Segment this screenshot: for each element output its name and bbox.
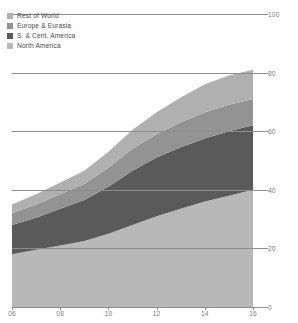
y-tick-mark: [253, 248, 268, 249]
legend-swatch-icon: [7, 33, 13, 39]
y-tick-mark: [253, 131, 268, 132]
legend-item-label: Rest of World: [17, 11, 59, 20]
stacked-area-chart: Rest of World Europe & Eurasia S. & Cent…: [0, 0, 298, 323]
y-axis-tick-label: 40: [268, 186, 276, 193]
y-tick-mark: [253, 307, 268, 308]
x-axis-tick-label: 16: [249, 310, 257, 317]
legend-swatch-icon: [7, 43, 13, 49]
legend-item-label: Europe & Eurasia: [17, 21, 71, 30]
gridline: [12, 73, 253, 74]
gridline: [12, 248, 253, 249]
y-axis-tick-label: 20: [268, 245, 276, 252]
legend-item-label: S. & Cent. America: [17, 31, 75, 40]
legend-item: North America: [7, 41, 75, 50]
legend-item: S. & Cent. America: [7, 31, 75, 40]
gridline: [12, 131, 253, 132]
x-axis-tick-label: 10: [105, 310, 113, 317]
legend-swatch-icon: [7, 13, 13, 19]
y-tick-mark: [253, 190, 268, 191]
x-axis-tick-label: 08: [56, 310, 64, 317]
legend-swatch-icon: [7, 23, 13, 29]
x-axis-tick-label: 14: [201, 310, 209, 317]
x-axis-line: [12, 307, 253, 308]
y-tick-mark: [253, 73, 268, 74]
y-axis-tick-label: 0: [268, 304, 272, 311]
legend-item: Rest of World: [7, 11, 75, 20]
x-axis-tick-label: 06: [8, 310, 16, 317]
legend-item: Europe & Eurasia: [7, 21, 75, 30]
y-axis-tick-label: 60: [268, 128, 276, 135]
y-axis-tick-label: 100: [268, 11, 280, 18]
y-axis-tick-label: 80: [268, 69, 276, 76]
x-axis-tick-label: 12: [153, 310, 161, 317]
legend-item-label: North America: [17, 41, 61, 50]
gridline: [12, 190, 253, 191]
chart-legend: Rest of World Europe & Eurasia S. & Cent…: [7, 11, 75, 50]
y-tick-mark: [253, 14, 268, 15]
